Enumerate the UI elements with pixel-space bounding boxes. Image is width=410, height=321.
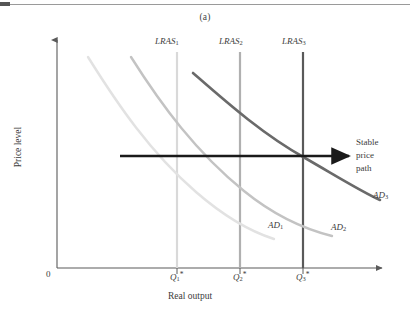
ad-2-label: AD2 [331, 222, 346, 234]
origin-label: 0 [46, 269, 51, 279]
lras-2-label: LRAS2 [219, 36, 243, 48]
stable-price-path-label: Stable price path [356, 136, 379, 175]
ad-1-curve [88, 57, 274, 239]
y-axis-title: Price level [13, 112, 23, 182]
stable-price-path-line-1: Stable [356, 136, 379, 149]
ad-3-curve [193, 73, 380, 200]
x-tick-label-q2: Q2* [233, 270, 246, 284]
ad-3-label: AD3 [373, 190, 388, 202]
stable-price-path-line-2: price [356, 149, 379, 162]
ad-2-curve [131, 57, 332, 236]
plot-canvas [0, 0, 410, 321]
figure-panel-a: (a) [0, 0, 410, 321]
x-tick-label-q3: Q3* [296, 270, 309, 284]
x-axis-title: Real output [120, 291, 260, 301]
lras-3-label: LRAS3 [282, 36, 306, 48]
lras-1-label: LRAS1 [155, 36, 179, 48]
x-tick-label-q1: Q1* [170, 270, 183, 284]
stable-price-path-line-3: path [356, 162, 379, 175]
ad-1-label: AD1 [268, 220, 283, 232]
